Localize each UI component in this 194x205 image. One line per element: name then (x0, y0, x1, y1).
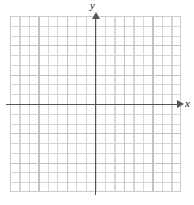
x-axis-arrow-icon (177, 100, 184, 108)
x-axis-label: x (185, 98, 190, 109)
y-axis-line (95, 19, 96, 195)
x-axis-line (6, 104, 179, 105)
coordinate-plane-figure: y x (0, 0, 194, 205)
y-axis-arrow-icon (92, 12, 100, 19)
y-axis-label: y (90, 0, 95, 11)
